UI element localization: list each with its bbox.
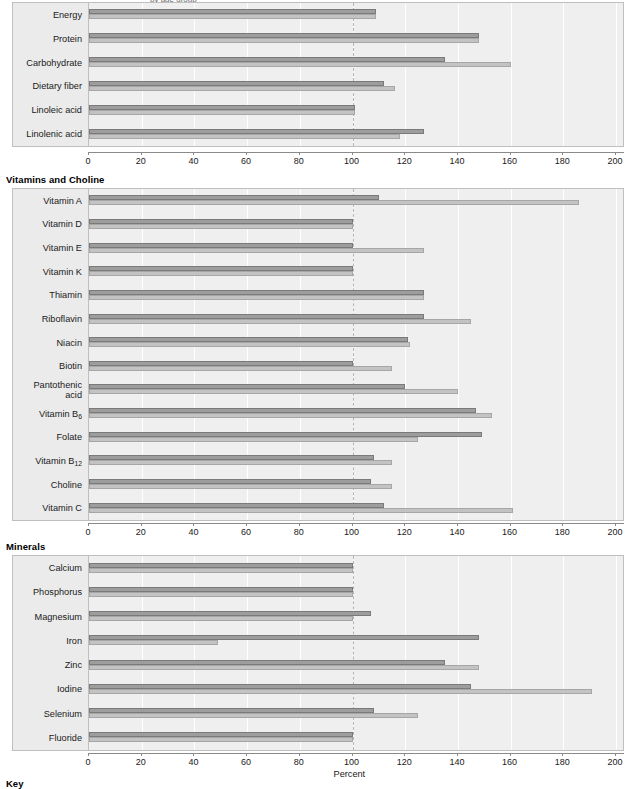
bar-series-b	[89, 568, 353, 573]
axis-tick	[562, 753, 563, 756]
axis-tick	[88, 523, 89, 526]
axis-tick-label: 60	[241, 156, 251, 166]
gridline	[300, 189, 301, 520]
axis-tick	[615, 152, 616, 155]
gridline	[458, 3, 459, 146]
axis-tick	[352, 523, 353, 526]
panel-title-minerals: Minerals	[6, 541, 45, 552]
axis-tick-label: 160	[502, 156, 517, 166]
category-label: Carbohydrate	[26, 58, 82, 68]
axis-tick-label: 80	[294, 527, 304, 537]
axis-tick-label: 40	[188, 156, 198, 166]
axis-tick-label: 80	[294, 156, 304, 166]
category-label: Vitamin A	[43, 196, 82, 206]
bar-series-b	[89, 640, 218, 645]
bar-series-b	[89, 592, 353, 597]
x-axis-vitamins: 020406080100120140160180200	[12, 523, 624, 543]
axis-tick	[246, 753, 247, 756]
gridline	[511, 3, 512, 146]
category-label: Folate	[56, 432, 82, 442]
axis-tick-label: 100	[344, 156, 359, 166]
axis-tick	[193, 523, 194, 526]
category-label: Iron	[66, 636, 82, 646]
gridline	[563, 3, 564, 146]
bar-series-b	[89, 200, 579, 205]
plot-frame-minerals: FluorideSeleniumIodineZincIronMagnesiumP…	[12, 555, 624, 751]
bar-series-b	[89, 224, 353, 229]
bar-series-b	[89, 737, 353, 742]
bar-series-b	[89, 460, 392, 465]
category-label: Phosphorus	[33, 587, 82, 597]
axis-tick	[141, 152, 142, 155]
bar-series-b	[89, 713, 418, 718]
category-label: Vitamin C	[42, 503, 82, 513]
category-label: Vitamin K	[43, 267, 82, 277]
plot-area-macronutrients	[89, 3, 623, 146]
reference-line-100	[353, 3, 354, 146]
bar-series-b	[89, 271, 353, 276]
axis-tick	[193, 753, 194, 756]
x-axis-macronutrients: 020406080100120140160180200	[12, 152, 624, 172]
category-label: Biotin	[59, 361, 82, 371]
axis-tick	[88, 152, 89, 155]
bar-series-b	[89, 508, 513, 513]
category-label: Vitamin D	[42, 219, 82, 229]
bar-series-b	[89, 689, 592, 694]
axis-tick-label: 0	[85, 527, 90, 537]
axis-tick-label: 180	[555, 757, 570, 767]
gridline	[247, 556, 248, 750]
axis-tick	[562, 152, 563, 155]
axis-tick	[404, 753, 405, 756]
category-label: Iodine	[57, 684, 82, 694]
bar-series-b	[89, 86, 395, 91]
gridline	[458, 189, 459, 520]
reference-line-100	[353, 189, 354, 520]
gridline	[247, 3, 248, 146]
panel-title-vitamins: Vitamins and Choline	[6, 174, 104, 185]
bar-series-b	[89, 484, 392, 489]
gridline	[247, 189, 248, 520]
axis-tick	[510, 523, 511, 526]
bar-series-b	[89, 248, 424, 253]
axis-tick-label: 40	[188, 527, 198, 537]
gridline	[194, 556, 195, 750]
plot-frame-vitamins: Vitamin CCholineVitamin B12FolateVitamin…	[12, 188, 624, 521]
bar-series-b	[89, 319, 471, 324]
category-label: Selenium	[44, 709, 82, 719]
gridline	[616, 3, 617, 146]
axis-tick-label: 200	[607, 757, 622, 767]
axis-tick	[404, 523, 405, 526]
reference-line-100	[353, 556, 354, 750]
gridline	[405, 556, 406, 750]
gridline	[194, 3, 195, 146]
axis-tick-label: 160	[502, 527, 517, 537]
category-label: Riboflavin	[42, 314, 82, 324]
gridline	[511, 189, 512, 520]
bar-series-b	[89, 62, 511, 67]
axis-tick	[141, 523, 142, 526]
axis-tick-label: 60	[241, 527, 251, 537]
category-label: Vitamin B12	[35, 456, 82, 467]
gridline	[405, 3, 406, 146]
axis-tick	[562, 523, 563, 526]
category-label: Linolenic acid	[26, 129, 82, 139]
key-heading: Key	[6, 778, 23, 789]
bar-series-b	[89, 413, 492, 418]
axis-tick-label: 20	[136, 527, 146, 537]
category-label: Magnesium	[35, 612, 83, 622]
axis-tick-label: 20	[136, 156, 146, 166]
axis-tick	[246, 152, 247, 155]
axis-tick	[299, 753, 300, 756]
category-label-column-vitamins: Vitamin CCholineVitamin B12FolateVitamin…	[13, 189, 89, 520]
axis-tick	[615, 523, 616, 526]
plot-frame-macronutrients: Linolenic acidLinoleic acidDietary fiber…	[12, 2, 624, 147]
bar-series-b	[89, 295, 424, 300]
axis-tick	[88, 753, 89, 756]
category-label: Linoleic acid	[31, 105, 82, 115]
gridline	[616, 189, 617, 520]
category-label: Niacin	[56, 338, 82, 348]
axis-tick	[299, 152, 300, 155]
gridline	[142, 3, 143, 146]
bar-series-b	[89, 134, 400, 139]
axis-tick-label: 40	[188, 757, 198, 767]
